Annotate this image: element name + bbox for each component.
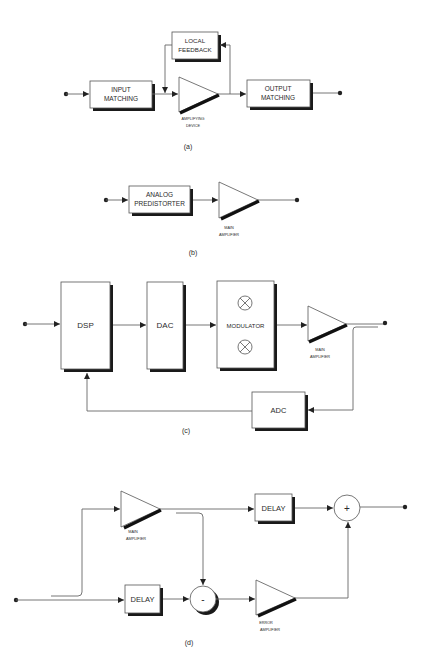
main-amplifier-label-2: AMPLIFIER — [219, 233, 239, 237]
subtractor-node: - — [190, 586, 219, 615]
main-amplifier-label-1: MAIN — [315, 348, 325, 352]
caption-b: (b) — [189, 249, 198, 257]
predistorter-label-1: ANALOG — [146, 191, 173, 198]
local-feedback-label-1: LOCAL — [185, 37, 206, 44]
local-feedback-block: LOCAL FEEDBACK — [172, 32, 221, 62]
error-amplifier-label-2: AMPLIFIER — [260, 628, 280, 632]
dsp-label: DSP — [77, 321, 93, 330]
caption-a: (a) — [184, 143, 193, 151]
local-feedback-label-2: FEEDBACK — [178, 46, 212, 53]
dsp-block: DSP — [61, 282, 113, 372]
output-terminal — [383, 321, 387, 325]
main-amplifier-triangle — [219, 182, 259, 219]
output-matching-label-1: OUTPUT — [265, 85, 292, 92]
panel-b: ANALOG PREDISTORTER MAIN AMPLIFIER (b) — [104, 182, 299, 257]
amplifying-device-label-2: DEVICE — [186, 124, 201, 128]
output-matching-label-2: MATCHING — [261, 94, 295, 101]
delay-bottom-block: DELAY — [125, 585, 163, 616]
predistorter-label-2: PREDISTORTER — [134, 200, 185, 207]
mixer-icon — [238, 296, 252, 310]
input-matching-label-2: MATCHING — [104, 95, 138, 102]
dac-block: DAC — [147, 282, 186, 372]
coupler-to-subtractor-wire — [176, 513, 203, 585]
panel-a: INPUT MATCHING LOCAL FEEDBACK AMPLIFYING… — [64, 32, 342, 151]
delay-top-block: DELAY — [255, 494, 295, 524]
amplifying-device-triangle — [179, 77, 219, 113]
delay-top-label: DELAY — [261, 504, 285, 513]
analog-predistorter-block: ANALOG PREDISTORTER — [129, 186, 193, 216]
panel-d: MAIN AMPLIFIER DELAY + DELAY - — [14, 491, 407, 647]
error-amplifier-label-1: ERROR — [259, 621, 273, 625]
mixer-icon — [238, 340, 252, 354]
output-terminal — [338, 91, 342, 95]
output-terminal — [295, 198, 299, 202]
error-amplifier-triangle — [256, 580, 296, 616]
main-amplifier-label-2: AMPLIFIER — [126, 537, 146, 541]
delay-bottom-label: DELAY — [130, 595, 154, 604]
subtractor-minus-icon: - — [201, 594, 204, 605]
input-matching-label-1: INPUT — [111, 86, 131, 93]
caption-c: (c) — [182, 427, 190, 435]
summer-node: + — [334, 495, 360, 521]
main-amplifier-triangle — [308, 306, 347, 342]
modulator-block: MODULATOR — [217, 281, 277, 371]
main-amplifier-label-1: MAIN — [128, 530, 138, 534]
amplifying-device-label-1: AMPLIFYING — [182, 117, 205, 121]
error-amp-to-summer-wire — [295, 522, 348, 598]
input-matching-block: INPUT MATCHING — [90, 81, 155, 111]
output-matching-block: OUTPUT MATCHING — [247, 80, 313, 110]
main-amplifier-triangle — [121, 491, 161, 528]
main-amplifier-label-1: MAIN — [224, 226, 234, 230]
main-amplifier-label-2: AMPLIFIER — [310, 355, 330, 359]
adc-to-dsp-feedback-wire — [87, 373, 252, 411]
adc-block: ADC — [252, 392, 308, 431]
caption-d: (d) — [185, 639, 194, 647]
figure-canvas: INPUT MATCHING LOCAL FEEDBACK AMPLIFYING… — [0, 0, 425, 662]
summer-plus-icon: + — [344, 503, 350, 514]
splitter-to-main-amp-wire — [51, 509, 120, 596]
dac-label: DAC — [157, 321, 174, 330]
modulator-label: MODULATOR — [227, 323, 265, 329]
panel-c: DSP DAC MODULATOR — [23, 281, 387, 435]
adc-label: ADC — [271, 406, 287, 415]
output-terminal — [403, 505, 407, 509]
